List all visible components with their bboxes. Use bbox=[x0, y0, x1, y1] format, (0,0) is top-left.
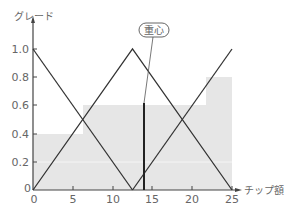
aggregated-area bbox=[33, 77, 232, 190]
y-tick-label: 0.8 bbox=[12, 71, 30, 84]
x-tick-label: 20 bbox=[185, 193, 199, 206]
y-axis-label: グレード bbox=[14, 10, 54, 22]
centroid-leader-line bbox=[144, 37, 153, 103]
x-tick-label: 10 bbox=[106, 193, 120, 206]
fuzzy-chart: 1.0 0.8 0.6 0.4 0.2 0 0 5 10 15 20 25 グレ… bbox=[0, 0, 288, 210]
y-tick-label: 0.2 bbox=[12, 156, 30, 169]
x-tick-label: 0 bbox=[31, 193, 38, 206]
x-tick-label: 15 bbox=[145, 193, 159, 206]
y-tick-label: 1.0 bbox=[12, 43, 30, 56]
centroid-label: 重心 bbox=[144, 24, 164, 36]
x-axis-label: チップ額 bbox=[244, 184, 284, 196]
y-tick-label: 0.6 bbox=[12, 99, 30, 112]
x-tick-label: 25 bbox=[225, 193, 239, 206]
y-tick-label: 0.4 bbox=[12, 128, 30, 141]
x-axis-arrow-icon bbox=[235, 188, 242, 192]
x-tick-label: 5 bbox=[70, 193, 77, 206]
